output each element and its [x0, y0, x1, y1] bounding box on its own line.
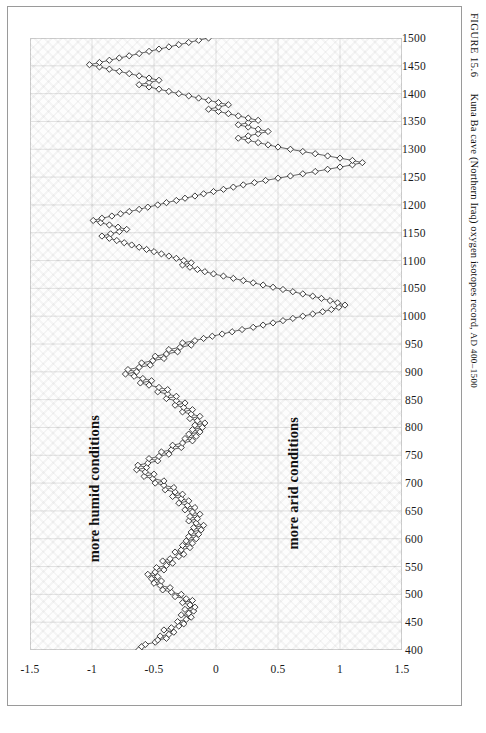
y-tick-label: 1 — [327, 663, 353, 675]
x-tick-label: 1100 — [402, 255, 425, 267]
x-tick-label: 400 — [405, 644, 423, 656]
x-tick-label: 850 — [405, 394, 423, 406]
x-tick-label: 1050 — [402, 282, 426, 294]
x-tick-label: 1450 — [402, 60, 426, 72]
figure-caption: FIGURE 15.6Kuna Ba cave (Northern Iraq) … — [464, 13, 480, 713]
x-tick-label: 800 — [405, 421, 423, 433]
annotation-more-humid-conditions: more humid conditions — [85, 415, 102, 562]
y-tick-label: -1 — [79, 663, 105, 675]
x-tick-label: 600 — [405, 533, 423, 545]
x-tick-label: 650 — [405, 505, 423, 517]
y-tick-label: -0.5 — [141, 663, 167, 675]
annotation-more-arid-conditions: more arid conditions — [284, 417, 301, 550]
figure-caption-text: Kuna Ba cave (Northern Iraq) oxygen isot… — [469, 93, 480, 329]
x-tick-label: 900 — [405, 366, 423, 378]
y-tick-label: 1.5 — [389, 663, 415, 675]
x-tick-label: 1250 — [402, 171, 426, 183]
x-tick-label: 700 — [405, 477, 423, 489]
y-tick-label: 0.5 — [265, 663, 291, 675]
y-tick-label: 0 — [203, 663, 229, 675]
x-tick-label: 1400 — [402, 88, 426, 100]
x-tick-label: 750 — [405, 449, 423, 461]
x-tick-label: 450 — [405, 616, 423, 628]
figure-page-frame: more humid conditions more arid conditio… — [7, 6, 462, 706]
x-tick-label: 1150 — [402, 227, 425, 239]
x-tick-label: 1000 — [402, 310, 426, 322]
figure-caption-daterange: AD 400–1500 — [469, 333, 479, 389]
y-tick-label: -1.5 — [17, 663, 43, 675]
x-tick-label: 950 — [405, 338, 423, 350]
x-tick-label: 1300 — [402, 143, 426, 155]
x-tick-label: 500 — [405, 588, 423, 600]
x-tick-label: 550 — [405, 561, 423, 573]
rotated-figure-stage: more humid conditions more arid conditio… — [20, 18, 450, 694]
x-tick-label: 1500 — [402, 32, 426, 44]
x-tick-label: 1200 — [402, 199, 426, 211]
x-tick-label: 1350 — [402, 115, 426, 127]
figure-number: FIGURE 15.6 — [469, 13, 480, 77]
